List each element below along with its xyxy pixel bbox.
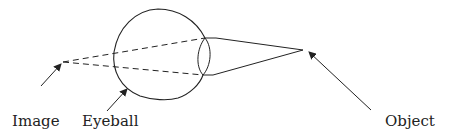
ray-image-top — [63, 38, 205, 62]
ray-object-top-2 — [216, 38, 303, 50]
image-pointer-arrow — [41, 64, 61, 86]
lens — [198, 38, 210, 75]
eyeball-label: Eyeball — [82, 114, 138, 129]
eyeball-pointer-arrow — [107, 89, 127, 111]
ray-object-bottom-2 — [213, 50, 303, 75]
object-label: Object — [385, 114, 435, 129]
eyeball-outline — [114, 9, 205, 100]
object-pointer-arrow — [309, 52, 371, 110]
image-label: Image — [12, 114, 60, 129]
ray-image-bottom — [63, 62, 203, 75]
